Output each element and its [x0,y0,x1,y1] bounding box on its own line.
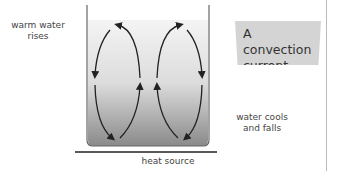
label-line: rises [8,31,68,42]
beaker [87,5,209,146]
margin-divider [326,0,327,171]
water-cools-label: water cools and falls [232,112,292,134]
label-line: and falls [232,123,292,134]
heat-source-label: heat source [128,156,208,167]
title-line: A convection [243,26,321,58]
title-box: A convection current [235,21,321,65]
warm-water-rises-label: warm water rises [8,20,68,42]
label-line: warm water [8,20,68,31]
label-line: water cools [232,112,292,123]
